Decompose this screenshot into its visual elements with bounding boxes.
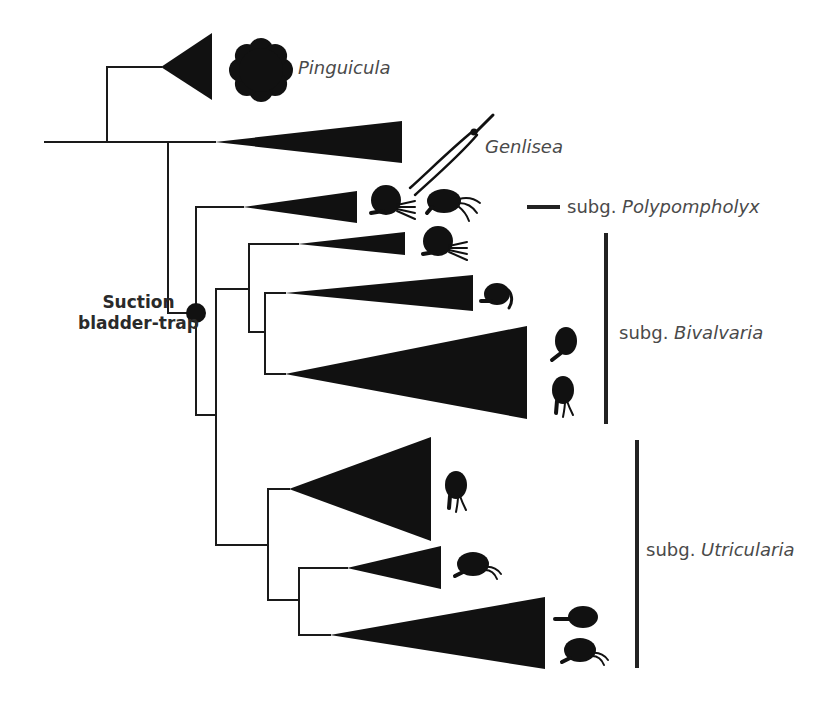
utricularia-3-trap-1-icon xyxy=(555,606,598,628)
subg-prefix: subg. xyxy=(619,322,674,343)
subg-prefix: subg. xyxy=(567,196,622,217)
subgenus-name: Polypompholyx xyxy=(622,196,760,217)
polypompholyx-trap-2-icon xyxy=(427,189,480,221)
bivalvaria-3-trap-1-icon xyxy=(552,327,577,360)
bivalvaria-2-trap-icon xyxy=(481,283,512,308)
clade-triangle-genlisea xyxy=(215,121,402,163)
bivalvaria-1-trap-icon xyxy=(423,226,467,260)
node-label-suction-bladder-trap: Suction bladder-trap xyxy=(78,292,199,334)
clade-triangle-bivalvaria-1 xyxy=(298,232,405,255)
clade-triangle-utricularia-1 xyxy=(289,437,431,541)
clade-triangle-utricularia-2 xyxy=(347,546,441,589)
label-subg-bivalvaria: subg. Bivalvaria xyxy=(619,322,763,343)
tree-edges xyxy=(45,67,347,635)
subgenus-name: Utricularia xyxy=(701,539,794,560)
phylogenetic-tree xyxy=(0,0,824,704)
node-label-line1: Suction xyxy=(78,292,199,313)
utricularia-3-trap-2-icon xyxy=(562,638,608,665)
clade-triangle-polypompholyx xyxy=(243,191,357,223)
label-subg-utricularia: subg. Utricularia xyxy=(646,539,795,560)
pinguicula-leaf-rosette-icon xyxy=(229,38,293,102)
utricularia-2-trap-icon xyxy=(455,552,501,579)
subg-prefix: subg. xyxy=(646,539,701,560)
genlisea-eel-trap-icon xyxy=(410,115,493,195)
clade-triangle-pinguicula xyxy=(161,33,212,100)
clade-triangle-utricularia-3 xyxy=(330,597,545,669)
subgenus-name: Bivalvaria xyxy=(674,322,763,343)
label-genlisea: Genlisea xyxy=(485,136,563,157)
clade-triangle-bivalvaria-3 xyxy=(285,326,527,419)
clade-triangles xyxy=(161,33,545,669)
utricularia-1-trap-icon xyxy=(445,471,467,512)
clade-triangle-bivalvaria-2 xyxy=(285,275,473,311)
label-subg-polypompholyx: subg. Polypompholyx xyxy=(567,196,760,217)
node-label-line2: bladder-trap xyxy=(78,313,199,334)
polypompholyx-trap-1-icon xyxy=(371,185,415,219)
label-pinguicula: Pinguicula xyxy=(298,57,390,78)
bivalvaria-3-trap-2-icon xyxy=(552,376,574,417)
